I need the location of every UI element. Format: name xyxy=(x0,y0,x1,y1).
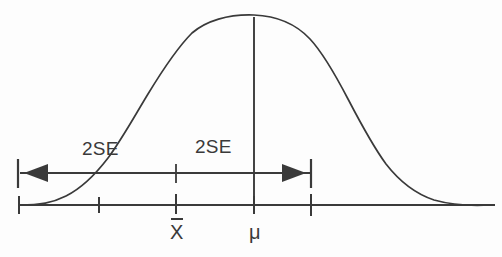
normal-distribution-figure: 2SE 2SE X μ xyxy=(0,0,502,257)
x-bar-glyph: X xyxy=(170,222,184,242)
arrowhead-left-icon xyxy=(24,164,48,182)
label-2se-left: 2SE xyxy=(82,139,119,158)
x-bar-letter: X xyxy=(170,221,184,243)
arrowhead-right-icon xyxy=(282,164,306,182)
label-mu: μ xyxy=(249,222,261,242)
label-2se-right: 2SE xyxy=(195,137,232,156)
label-x-bar: X xyxy=(170,222,184,242)
bell-curve-path xyxy=(20,15,490,205)
x-bar-overline-icon xyxy=(171,218,183,220)
distribution-svg xyxy=(0,0,502,257)
